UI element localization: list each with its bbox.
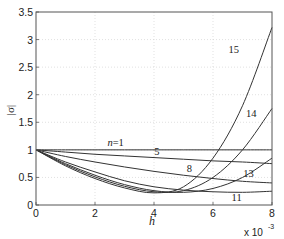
y-tick-label: 0.5 <box>18 171 33 183</box>
x-tick-label: 2 <box>92 207 98 219</box>
grid-lines <box>36 12 272 205</box>
y-tick-label: 1.5 <box>18 116 33 128</box>
curve-label: 15 <box>228 44 239 55</box>
x-tick-label: 0 <box>33 207 39 219</box>
curve-label: 14 <box>246 108 257 119</box>
x-tick-label: 8 <box>269 207 275 219</box>
y-tick-label: 2.5 <box>18 61 33 73</box>
y-tick-label: 3.5 <box>18 6 33 18</box>
y-tick-label: 1 <box>27 144 33 156</box>
curve-label: 13 <box>243 168 254 179</box>
curve-label: n=1 <box>107 137 123 148</box>
curve-label: 11 <box>232 192 242 203</box>
curve-label: 5 <box>154 146 159 157</box>
y-tick-label: 2 <box>27 89 33 101</box>
x-multiplier-base: x 10 <box>244 227 263 238</box>
x-multiplier: x 10 -3 <box>244 223 274 238</box>
y-tick-label: 3 <box>27 34 33 46</box>
curve-labels: n=15811131415 <box>107 44 257 202</box>
y-axis-label: |σ| <box>4 105 16 115</box>
line-chart: 02468 00.511.522.533.5 n=15811131415 h x… <box>0 0 284 239</box>
x-tick-label: 6 <box>210 207 216 219</box>
x-axis-label: h <box>149 214 155 228</box>
curve-label: 8 <box>187 163 192 174</box>
x-multiplier-exponent: -3 <box>268 223 274 230</box>
y-tick-label: 0 <box>27 199 33 211</box>
